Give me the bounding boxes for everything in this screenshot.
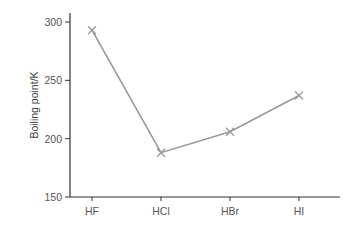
data-point-x-marker (295, 92, 303, 100)
x-tick-label: HBr (221, 205, 240, 217)
y-tick-label: 200 (44, 133, 62, 145)
y-axis-title: Boiling point/K (28, 71, 40, 138)
y-tick-label: 250 (44, 74, 62, 86)
x-tick-label: HCl (152, 205, 170, 217)
data-point-x-marker (226, 128, 234, 136)
boiling-point-chart: 150200250300HFHClHBrHIBoiling point/K (0, 0, 359, 234)
data-point-x-marker (88, 26, 96, 34)
series-line (92, 30, 299, 153)
x-tick-label: HI (294, 205, 305, 217)
y-tick-label: 300 (44, 16, 62, 28)
x-tick-label: HF (85, 205, 99, 217)
y-tick-label: 150 (44, 191, 62, 203)
chart-canvas: 150200250300HFHClHBrHIBoiling point/K (0, 0, 359, 234)
data-point-x-marker (157, 149, 165, 157)
